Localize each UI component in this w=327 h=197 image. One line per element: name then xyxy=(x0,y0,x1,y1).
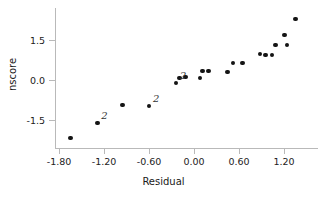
x-tick-mark xyxy=(194,149,195,154)
duplicate-count-label: 2 xyxy=(101,110,107,121)
data-point xyxy=(174,81,179,86)
x-tick-mark xyxy=(149,149,150,154)
y-tick-label: -1.5 xyxy=(26,115,45,126)
x-tick-mark xyxy=(104,149,105,154)
x-axis-line xyxy=(55,148,318,149)
y-axis-title: nscore xyxy=(7,45,18,105)
x-tick-label: -1.20 xyxy=(92,156,117,167)
x-axis-title: Residual xyxy=(0,176,327,187)
y-tick-mark xyxy=(49,120,55,121)
y-tick-mark xyxy=(49,40,55,41)
data-point xyxy=(263,53,268,58)
x-tick-mark xyxy=(59,149,60,154)
data-point xyxy=(273,43,278,48)
data-point xyxy=(293,17,298,22)
y-axis-line xyxy=(55,8,56,149)
data-point xyxy=(240,61,245,66)
x-tick-mark xyxy=(284,149,285,154)
x-tick-label: 0.00 xyxy=(183,156,204,167)
data-point xyxy=(231,61,236,66)
x-tick-label: -1.80 xyxy=(47,156,72,167)
data-point xyxy=(206,69,211,74)
data-point xyxy=(95,121,100,126)
data-point xyxy=(200,69,205,74)
x-tick-label: -0.60 xyxy=(137,156,162,167)
x-tick-label: 0.60 xyxy=(228,156,249,167)
duplicate-count-label: 2 xyxy=(153,93,159,104)
data-point xyxy=(282,33,287,38)
data-point xyxy=(285,43,290,48)
data-point xyxy=(270,53,275,58)
x-tick-mark xyxy=(239,149,240,154)
data-point xyxy=(68,136,73,141)
x-tick-label: 1.20 xyxy=(273,156,294,167)
duplicate-count-label: 2 xyxy=(180,70,186,81)
data-point xyxy=(198,76,203,81)
normal-probability-plot: -1.80-1.20-0.600.000.601.20 1.50.0-1.5 2… xyxy=(0,0,327,197)
y-tick-label: 0.0 xyxy=(30,75,45,86)
data-point xyxy=(120,103,125,108)
data-point xyxy=(258,52,263,57)
data-point xyxy=(147,104,152,109)
y-tick-label: 1.5 xyxy=(30,34,45,45)
y-tick-mark xyxy=(49,80,55,81)
data-point xyxy=(225,70,230,75)
